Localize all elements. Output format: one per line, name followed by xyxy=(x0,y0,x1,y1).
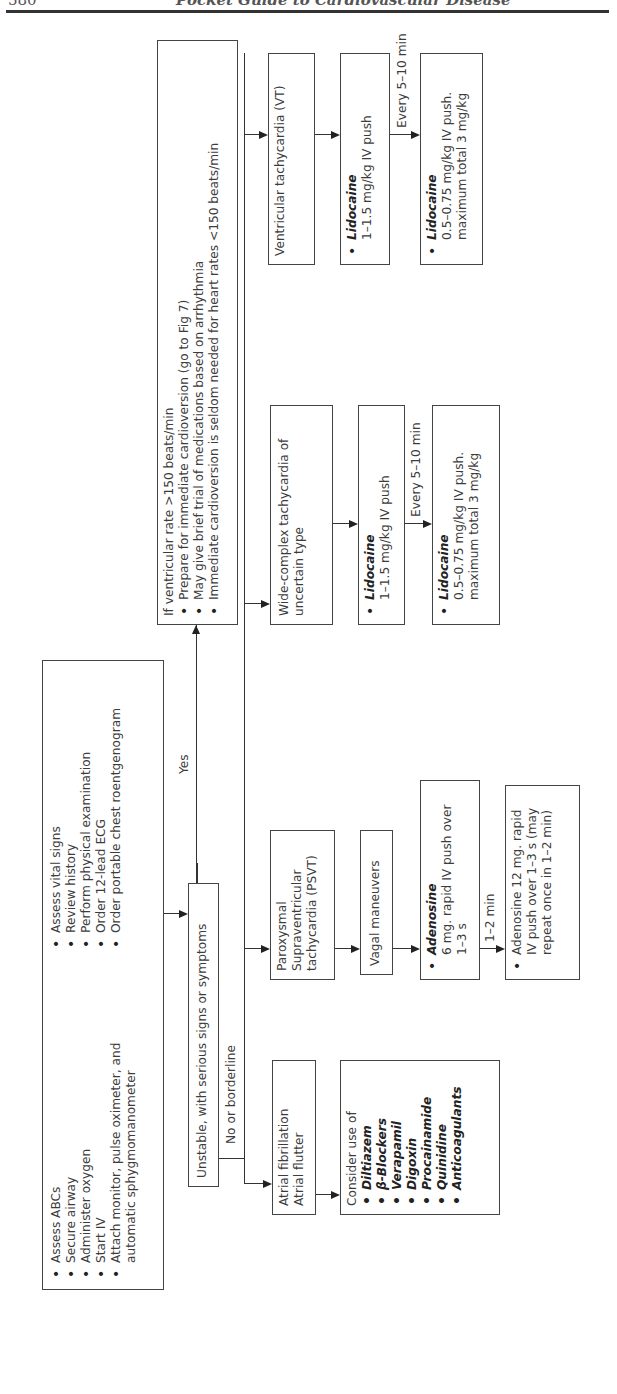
list-item: Attach monitor, pulse oximeter, and auto… xyxy=(109,979,139,1279)
arrow-down-icon xyxy=(411,945,420,953)
list-item: Assess ABCs xyxy=(49,979,64,1279)
initial-assessment-box: Assess ABCs Secure airway Administer oxy… xyxy=(42,660,164,1290)
drug-dose: 1–1.5 mg/kg IV push xyxy=(378,475,392,600)
drug-item: Digoxin xyxy=(405,1069,420,1206)
list-item: Review history xyxy=(64,669,79,949)
vt-title: Ventricular tachycardia (VT) xyxy=(273,85,287,256)
drug-name: Lidocaine xyxy=(363,534,377,600)
drug-dose: 0.5–0.75 mg/kg IV push. maximum total 3 … xyxy=(440,92,469,240)
arrow-down-icon xyxy=(331,1191,340,1199)
consider-heading: Consider use of xyxy=(345,1069,360,1206)
connector xyxy=(244,134,260,135)
atrial-drug-list: Diltiazem β-Blockers Verapamil Digoxin P… xyxy=(360,1069,465,1206)
connector xyxy=(244,603,262,604)
list-item: May give brief trial of medications base… xyxy=(192,49,207,616)
connector xyxy=(244,1183,264,1184)
wide-complex-box: Wide-complex tachycardia of uncertain ty… xyxy=(270,405,333,625)
drug-name: Lidocaine xyxy=(425,174,439,240)
decision-box: Unstable, with serious signs or symptoms xyxy=(188,883,219,1187)
arrow-down-icon xyxy=(331,131,340,139)
psvt-box: Paroxysmal Supraventricular tachycardia … xyxy=(270,830,335,980)
atrial-title-1: Atrial fibrillation xyxy=(277,1069,292,1206)
tachycardia-flowchart: Assess ABCs Secure airway Administer oxy… xyxy=(0,0,617,1394)
drug-item: Verapamil xyxy=(390,1069,405,1206)
branch-bus xyxy=(244,53,245,1184)
connector xyxy=(244,948,262,949)
atrial-title-2: Atrial flutter xyxy=(292,1069,307,1206)
unstable-list: Prepare for immediate cardioversion (go … xyxy=(177,49,222,616)
atrial-fibrillation-box: Atrial fibrillation Atrial flutter xyxy=(272,1060,316,1215)
list-item: Secure airway xyxy=(64,979,79,1279)
arrow-down-icon xyxy=(261,600,270,608)
list-item: Order 12-lead ECG xyxy=(94,669,109,949)
wide-complex-title: Wide-complex tachycardia of uncertain ty… xyxy=(277,439,306,616)
vagal-maneuvers-box: Vagal maneuvers xyxy=(360,830,393,975)
drug-dose: 1–1.5 mg/kg IV push xyxy=(360,115,374,240)
list-item: Assess vital signs xyxy=(49,669,64,949)
list-item: Administer oxygen xyxy=(79,979,94,1279)
drug-item: Anticoagulants xyxy=(450,1069,465,1206)
wide-lidocaine-1-box: Lidocaine 1–1.5 mg/kg IV push xyxy=(358,405,405,625)
initial-list-col1: Assess ABCs Secure airway Administer oxy… xyxy=(49,979,139,1279)
consider-drugs-box: Consider use of Diltiazem β-Blockers Ver… xyxy=(340,1060,500,1215)
connector xyxy=(244,53,245,164)
drug-dose: 0.5–0.75 mg/kg IV push. maximum total 3 … xyxy=(452,452,481,600)
arrow-down-icon xyxy=(261,945,270,953)
connector xyxy=(333,523,349,524)
arrow-right-icon xyxy=(192,625,200,634)
connector xyxy=(316,1194,332,1195)
list-item: Prepare for immediate cardioversion (go … xyxy=(177,49,192,616)
connector xyxy=(335,948,351,949)
adenosine-12mg-box: Adenosine 12 mg. rapid IV push over 1–3 … xyxy=(505,785,580,980)
connector xyxy=(164,913,180,914)
yes-label: Yes xyxy=(177,754,191,774)
arrow-down-icon xyxy=(349,520,358,528)
arrow-down-icon xyxy=(263,1180,272,1188)
drug-name: Adenosine xyxy=(425,884,439,955)
psvt-title: Paroxysmal Supraventricular tachycardia … xyxy=(275,855,319,971)
list-item: Start IV xyxy=(94,979,109,1279)
list-item: Immediate cardioversion is seldom needed… xyxy=(207,49,222,616)
drug-item: Diltiazem xyxy=(360,1069,375,1206)
interval-label: 1–2 min xyxy=(483,894,497,942)
yes-line xyxy=(196,624,197,883)
drug-item: Quinidine xyxy=(435,1069,450,1206)
arrow-down-icon xyxy=(411,131,420,139)
connector xyxy=(393,948,411,949)
no-borderline-label: No or borderline xyxy=(224,1045,238,1144)
no-connector xyxy=(219,1158,244,1159)
arrow-down-icon xyxy=(259,131,268,139)
drug-dose: Adenosine 12 mg. rapid IV push over 1–3 … xyxy=(510,794,555,971)
list-item: Perform physical examination xyxy=(79,669,94,949)
initial-list-col2: Assess vital signs Review history Perfor… xyxy=(49,669,124,949)
unstable-management-box: If ventricular rate >150 beats/min Prepa… xyxy=(157,40,238,625)
arrow-down-icon xyxy=(351,945,360,953)
wide-lidocaine-2-box: Lidocaine 0.5–0.75 mg/kg IV push. maximu… xyxy=(432,405,500,625)
arrow-down-icon xyxy=(423,520,432,528)
vt-lidocaine-2-box: Lidocaine 0.5–0.75 mg/kg IV push. maximu… xyxy=(420,53,483,265)
drug-dose: 6 mg. rapid IV push over 1–3 s xyxy=(440,804,469,955)
connector xyxy=(390,134,411,135)
drug-item: Procainamide xyxy=(420,1069,435,1206)
adenosine-6mg-box: Adenosine 6 mg. rapid IV push over 1–3 s xyxy=(420,780,480,980)
connector xyxy=(315,134,331,135)
list-item: Order portable chest roentgenogram xyxy=(109,669,124,949)
unstable-heading: If ventricular rate >150 beats/min xyxy=(162,49,177,616)
interval-label: Every 5–10 min xyxy=(409,422,423,517)
connector xyxy=(480,948,496,949)
arrow-down-icon xyxy=(496,945,505,953)
vt-box: Ventricular tachycardia (VT) xyxy=(268,53,315,265)
interval-label: Every 5–10 min xyxy=(395,33,409,128)
drug-name: Lidocaine xyxy=(437,534,451,600)
connector xyxy=(405,523,423,524)
decision-label: Unstable, with serious signs or symptoms xyxy=(195,924,209,1178)
drug-item: β-Blockers xyxy=(375,1069,390,1206)
vagal-label: Vagal maneuvers xyxy=(368,860,382,966)
vt-lidocaine-1-box: Lidocaine 1–1.5 mg/kg IV push xyxy=(340,53,390,265)
arrow-down-icon xyxy=(179,910,188,918)
drug-name: Lidocaine xyxy=(345,174,359,240)
